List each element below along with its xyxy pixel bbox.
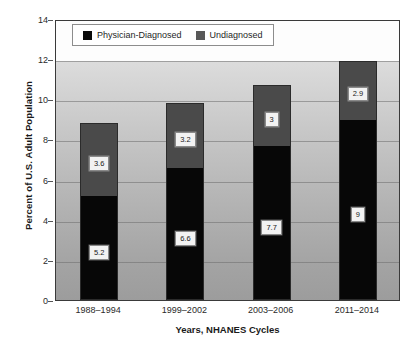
y-tick-mark (48, 20, 53, 21)
chart-figure: Percent of U.S. Adult Population 0246810… (0, 0, 413, 352)
value-label-undiagnosed: 3 (265, 112, 279, 127)
y-tick-label: 6 (26, 176, 48, 186)
black-square-icon (83, 31, 92, 40)
bar-1: 3.65.2 (80, 123, 118, 300)
bar-segment-undiagnosed: 3 (254, 86, 290, 146)
value-label-physician-diagnosed: 5.2 (89, 245, 109, 260)
y-tick-label: 10 (26, 95, 48, 105)
y-tick-label: 2 (26, 256, 48, 266)
x-tick-label: 1999–2002 (144, 305, 224, 315)
bar-segment-undiagnosed: 2.9 (340, 62, 376, 120)
bar-4: 2.99 (339, 61, 377, 300)
bar-3: 37.7 (253, 85, 291, 300)
y-tick-label: 14 (26, 15, 48, 25)
value-label-physician-diagnosed: 9 (351, 207, 365, 222)
plot-area: 3.65.23.26.637.72.99 (55, 20, 400, 301)
x-tick-label: 2003–2006 (231, 305, 311, 315)
y-tick-mark (48, 301, 53, 302)
x-axis-title: Years, NHANES Cycles (55, 324, 400, 335)
bar-segment-physician-diagnosed: 5.2 (81, 196, 117, 299)
legend-item-2: Undiagnosed (196, 30, 263, 40)
x-tick-label: 1988–1994 (58, 305, 138, 315)
legend-item-1: Physician-Diagnosed (83, 30, 182, 40)
value-label-physician-diagnosed: 7.7 (261, 220, 281, 235)
value-label-undiagnosed: 2.9 (348, 87, 368, 102)
value-label-undiagnosed: 3.2 (175, 132, 195, 147)
y-tick-mark (48, 60, 53, 61)
y-tick-label: 12 (26, 55, 48, 65)
y-tick-label: 8 (26, 135, 48, 145)
bar-segment-physician-diagnosed: 6.6 (167, 168, 203, 299)
chart-legend: Physician-DiagnosedUndiagnosed (72, 24, 274, 46)
bar-segment-physician-diagnosed: 7.7 (254, 146, 290, 299)
bar-segment-undiagnosed: 3.6 (81, 124, 117, 195)
y-tick-label: 0 (26, 296, 48, 306)
value-label-undiagnosed: 3.6 (89, 156, 109, 171)
x-axis-ticks: 1988–19941999–20022003–20062011–2014 (55, 303, 400, 319)
y-tick-label: 4 (26, 216, 48, 226)
bar-2: 3.26.6 (166, 103, 204, 300)
y-tick-mark (48, 140, 53, 141)
legend-label: Undiagnosed (210, 30, 263, 40)
y-tick-mark (48, 100, 53, 101)
bar-segment-undiagnosed: 3.2 (167, 104, 203, 168)
value-label-physician-diagnosed: 6.6 (175, 231, 195, 246)
y-axis-ticks: 02468101214 (24, 0, 48, 352)
y-tick-mark (48, 181, 53, 182)
bar-segment-physician-diagnosed: 9 (340, 120, 376, 299)
x-tick-label: 2011–2014 (317, 305, 397, 315)
y-tick-mark (48, 221, 53, 222)
legend-label: Physician-Diagnosed (97, 30, 182, 40)
gray-square-icon (196, 31, 205, 40)
y-tick-mark (48, 261, 53, 262)
